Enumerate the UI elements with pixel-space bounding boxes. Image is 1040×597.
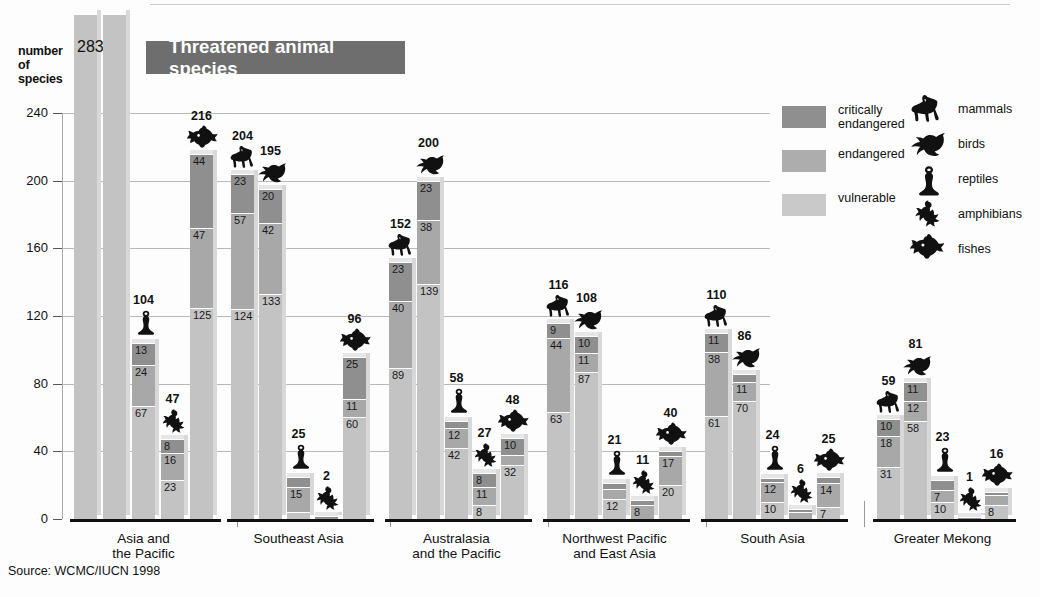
- segment-value-label: 11: [343, 400, 357, 412]
- chart-canvas: number of species 24020016012080400 Asia…: [0, 0, 1040, 597]
- bar-reptiles: 1210: [761, 478, 784, 519]
- bar-side-face: [654, 496, 658, 515]
- segment-value-label: 10: [575, 337, 590, 349]
- amphibian-icon: [914, 199, 944, 229]
- bar-segment-vuln: 61: [705, 416, 728, 519]
- bar-fishes: 4447125: [190, 154, 213, 519]
- segment-value-label: 24: [132, 366, 147, 378]
- reptile-icon: [918, 164, 940, 196]
- bar-segment-vuln: 32: [501, 465, 524, 519]
- segment-value-label: 13: [132, 344, 147, 356]
- bar-segment-endg: 57: [231, 213, 254, 309]
- bar-segment-endg: 11: [575, 353, 598, 372]
- bar-mammals: 101831: [877, 419, 900, 519]
- bar-segment-clipped: [74, 14, 97, 519]
- bar-segment-vuln: 67: [132, 406, 155, 519]
- bar-total-label: 104: [122, 293, 166, 307]
- group-baseline: [543, 519, 690, 522]
- segment-value-label: 44: [547, 339, 562, 351]
- bar-total-label: 152: [379, 217, 423, 231]
- bar-segment-crit: [733, 374, 756, 382]
- mammal-icon: [874, 390, 908, 415]
- segment-value-label: 133: [259, 295, 280, 307]
- bar-segment-vuln: 8: [473, 505, 496, 519]
- legend-animal-row: birds: [782, 133, 1032, 168]
- segment-value-label: 7: [817, 508, 826, 520]
- bar-segment-endg: 12: [761, 482, 784, 502]
- x-axis-group-label-line: Greater Mekong: [837, 531, 1040, 546]
- bar-birds: 2042133: [259, 189, 282, 519]
- bar-total-label: 25: [277, 427, 321, 441]
- bird-icon: [414, 152, 448, 177]
- bar-side-face: [254, 170, 258, 515]
- bar-segment-crit: 13: [132, 343, 155, 365]
- legend-animal-row: fishes: [782, 238, 1032, 273]
- segment-value-label: 17: [659, 457, 674, 469]
- segment-value-label: 8: [631, 506, 640, 518]
- bar-segment-vuln: 12: [603, 499, 626, 519]
- legend-animal-label: mammals: [958, 102, 1012, 116]
- x-axis-group-label: Greater Mekong: [837, 531, 1040, 546]
- bar-mammals: 2357124: [231, 174, 254, 519]
- bar-segment-endg: [985, 495, 1008, 505]
- segment-value-label: 23: [231, 175, 246, 187]
- bird-icon: [572, 307, 606, 332]
- bar-segment-endg: 42: [259, 223, 282, 294]
- segment-value-label: 15: [287, 488, 302, 500]
- bird-icon: [730, 345, 764, 370]
- bar-segment-endg: 7: [931, 490, 954, 502]
- bar-fishes: 8: [985, 492, 1008, 519]
- source-note: Source: WCMC/IUCN 1998: [8, 564, 160, 578]
- bar-segment-vuln: 63: [547, 412, 570, 519]
- bar-side-face: [282, 185, 286, 515]
- bar-total-label: 204: [221, 129, 265, 143]
- bar-total-label: 86: [723, 329, 767, 343]
- bar-segment-vuln: 7: [817, 507, 840, 519]
- bird-icon: [901, 353, 935, 378]
- segment-value-label: 61: [705, 417, 720, 429]
- bar-segment-vuln: 70: [733, 401, 756, 519]
- bar-side-face: [366, 353, 370, 515]
- segment-value-label: 8: [473, 474, 482, 486]
- segment-value-label: 42: [259, 224, 274, 236]
- bar-amphibians: [315, 516, 338, 519]
- bar-segment-vuln: 89: [389, 368, 412, 519]
- segment-value-label: 9: [547, 324, 556, 336]
- bar-segment-vuln: 139: [417, 284, 440, 519]
- bar-segment-vuln: [287, 512, 310, 519]
- bar-birds: 1170: [733, 374, 756, 519]
- bar-side-face: [524, 434, 528, 515]
- bar-side-face: [184, 435, 188, 515]
- legend-animal-row: mammals: [782, 98, 1032, 133]
- bar-segment-clipped: [103, 14, 126, 519]
- fishe-icon: [814, 448, 848, 473]
- bar-segment-crit: 11: [904, 382, 927, 401]
- segment-value-label: 12: [445, 429, 460, 441]
- bar-segment-endg: 38: [705, 352, 728, 416]
- bar-total-label: 108: [565, 291, 609, 305]
- bar-side-face: [338, 512, 342, 515]
- bar-side-face: [840, 473, 844, 515]
- bar-segment-vuln: 31: [877, 467, 900, 519]
- segment-value-label: 11: [733, 383, 747, 395]
- bird-icon: [256, 160, 290, 185]
- bar-segment-vuln: 125: [190, 308, 213, 519]
- mammal-icon: [910, 94, 948, 124]
- bar-segment-vuln: 8: [985, 505, 1008, 519]
- segment-value-label: 23: [417, 182, 432, 194]
- bar-segment-endg: [603, 489, 626, 499]
- segment-value-label: 8: [985, 506, 994, 518]
- segment-value-label: 32: [501, 466, 516, 478]
- segment-value-label: 16: [161, 454, 176, 466]
- bar-fishes: 1032: [501, 438, 524, 519]
- bar-segment-endg: [501, 455, 524, 465]
- segment-value-label: 14: [817, 484, 832, 496]
- bar-segment-vuln: 60: [343, 417, 366, 519]
- segment-value-label: 40: [389, 302, 404, 314]
- bar-total-label: 216: [180, 109, 224, 123]
- x-axis-group-label-line: and East Asia: [507, 546, 722, 561]
- bar-segment-crit: [817, 477, 840, 484]
- x-axis-group-label-line: the Pacific: [34, 546, 253, 561]
- reptile-icon: [449, 387, 469, 417]
- bar-segment-crit: 23: [389, 262, 412, 301]
